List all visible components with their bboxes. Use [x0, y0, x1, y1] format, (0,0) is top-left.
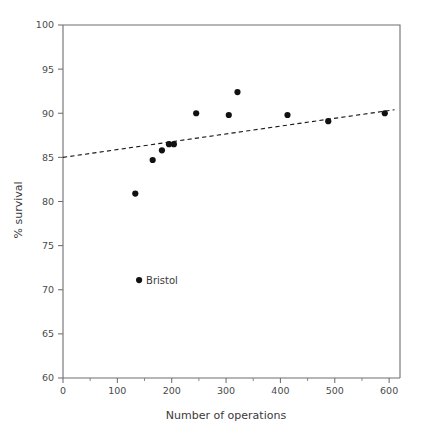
y-axis-ticks — [58, 25, 63, 378]
x-axis-title: Number of operations — [166, 409, 287, 422]
x-axis-ticks — [63, 378, 389, 383]
y-tick-label: 90 — [42, 108, 54, 119]
x-tick-label: 300 — [217, 385, 235, 396]
y-tick-label: 100 — [36, 19, 54, 30]
data-points — [132, 89, 388, 283]
y-tick-label: 80 — [42, 196, 54, 207]
data-point — [150, 157, 156, 163]
data-point — [132, 190, 138, 196]
x-axis-tick-labels: 0100200300400500600 — [60, 385, 398, 396]
data-point — [226, 112, 232, 118]
x-tick-label: 500 — [326, 385, 344, 396]
x-tick-label: 0 — [60, 385, 66, 396]
y-tick-label: 60 — [42, 372, 54, 383]
point-annotations: Bristol — [146, 275, 178, 286]
data-point — [325, 118, 331, 124]
y-tick-label: 95 — [42, 64, 54, 75]
x-tick-label: 100 — [108, 385, 126, 396]
data-point — [284, 112, 290, 118]
axes-frame — [63, 25, 400, 378]
y-axis-title: % survival — [12, 181, 25, 238]
annotation-label: Bristol — [146, 275, 178, 286]
data-point-bristol — [136, 277, 142, 283]
data-point — [193, 110, 199, 116]
y-axis-tick-labels: 6065707580859095100 — [36, 19, 54, 383]
y-tick-label: 85 — [42, 152, 54, 163]
y-tick-label: 75 — [42, 240, 54, 251]
data-point — [171, 141, 177, 147]
chart-figure: 0100200300400500600 6065707580859095100 … — [0, 0, 428, 444]
scatter-plot: 0100200300400500600 6065707580859095100 … — [0, 0, 428, 444]
x-tick-label: 200 — [163, 385, 181, 396]
x-tick-label: 600 — [380, 385, 398, 396]
data-point — [159, 147, 165, 153]
y-tick-label: 65 — [42, 328, 54, 339]
data-point — [382, 110, 388, 116]
x-tick-label: 400 — [271, 385, 289, 396]
data-point — [234, 89, 240, 95]
y-tick-label: 70 — [42, 284, 54, 295]
